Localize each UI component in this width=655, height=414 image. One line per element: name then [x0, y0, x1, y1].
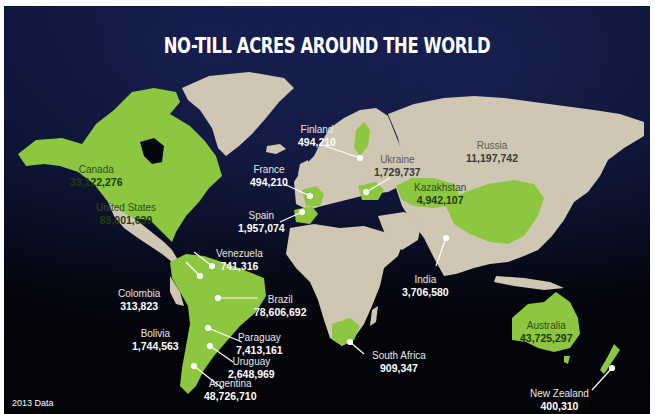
country-value: 909,347: [372, 362, 426, 374]
label-uruguay: Uruguay 2,648,969: [228, 356, 275, 380]
country-value: 4,942,107: [414, 194, 466, 206]
label-ukraine: Ukraine 1,729,737: [374, 154, 421, 178]
country-name: Canada: [70, 164, 123, 176]
country-name: Paraguay: [236, 332, 283, 344]
country-name: Uruguay: [228, 356, 275, 368]
country-value: 88,001,639: [96, 214, 156, 226]
country-name: Kazakhstan: [414, 182, 466, 194]
label-south-africa: South Africa 909,347: [372, 350, 426, 374]
country-value: 43,725,297: [520, 332, 573, 344]
label-brazil: Brazil 78,606,692: [254, 294, 307, 318]
label-new-zealand: New Zealand 400,310: [530, 388, 589, 412]
country-value: 1,744,563: [132, 340, 179, 352]
country-value: 7,413,161: [236, 344, 283, 356]
iceland-shape: [266, 144, 286, 154]
label-paraguay: Paraguay 7,413,161: [236, 332, 283, 356]
label-australia: Australia 43,725,297: [520, 320, 573, 344]
label-argentina: Argentina 48,726,710: [204, 378, 257, 402]
label-spain: Spain 1,957,074: [238, 210, 285, 234]
label-russia: Russia 11,197,742: [466, 140, 518, 164]
country-name: France: [250, 164, 288, 176]
country-value: 48,726,710: [204, 390, 257, 402]
country-name: Brazil: [254, 294, 307, 306]
label-united-states: United States 88,001,639: [96, 202, 156, 226]
country-value: 1,729,737: [374, 166, 421, 178]
country-name: Spain: [238, 210, 285, 222]
label-venezuela: Venezuela 741,316: [216, 248, 263, 272]
country-name: Bolivia: [132, 328, 179, 340]
country-value: 78,606,692: [254, 306, 307, 318]
tasmania-shape: [564, 356, 570, 364]
madagascar-shape: [370, 306, 378, 326]
label-france: France 494,210: [250, 164, 288, 188]
country-value: 741,316: [216, 260, 263, 272]
map-title: NO-TILL ACRES AROUND THE WORLD: [75, 34, 579, 58]
country-name: Venezuela: [216, 248, 263, 260]
country-name: Russia: [466, 140, 518, 152]
indonesia-shape: [494, 276, 564, 290]
label-bolivia: Bolivia 1,744,563: [132, 328, 179, 352]
country-value: 1,957,074: [238, 222, 285, 234]
country-value: 400,310: [530, 400, 589, 412]
label-india: India 3,706,580: [402, 274, 449, 298]
country-name: Colombia: [118, 288, 160, 300]
label-kazakhstan: Kazakhstan 4,942,107: [414, 182, 466, 206]
data-year-footnote: 2013 Data: [12, 398, 54, 408]
country-name: India: [402, 274, 449, 286]
map-frame: NO-TILL ACRES AROUND THE WORLD Canada 33…: [4, 6, 650, 414]
country-name: United States: [96, 202, 156, 214]
country-name: New Zealand: [530, 388, 589, 400]
country-name: Australia: [520, 320, 573, 332]
label-canada: Canada 33,122,276: [70, 164, 123, 188]
country-value: 313,823: [118, 300, 160, 312]
country-value: 33,122,276: [70, 176, 123, 188]
label-colombia: Colombia 313,823: [118, 288, 160, 312]
country-name: Ukraine: [374, 154, 421, 166]
country-value: 494,210: [298, 136, 336, 148]
spain-shape: [294, 206, 318, 224]
country-name: Finland: [298, 124, 336, 136]
label-finland: Finland 494,210: [298, 124, 336, 148]
country-name: South Africa: [372, 350, 426, 362]
country-value: 11,197,742: [466, 152, 518, 164]
country-name: Argentina: [204, 378, 257, 390]
country-value: 494,210: [250, 176, 288, 188]
country-value: 3,706,580: [402, 286, 449, 298]
